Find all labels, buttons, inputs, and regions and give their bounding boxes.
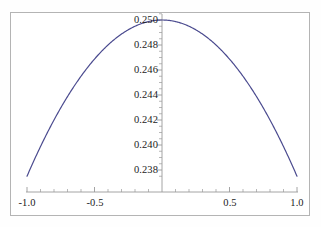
y-tick-label-0248: 0.248	[118, 39, 158, 50]
y-tick-label-0240: 0.240	[118, 139, 158, 150]
x-tick-label-pos05: 0.5	[210, 197, 250, 208]
y-tick-label-0250: 0.250	[118, 14, 158, 25]
y-tick-label-0246: 0.246	[118, 64, 158, 75]
x-tick-label-neg1: -1.0	[7, 197, 47, 208]
plot-root: 0.250 0.248 0.246 0.244 0.242 0.240 0.23…	[0, 0, 321, 227]
y-tick-label-0244: 0.244	[118, 89, 158, 100]
x-tick-label-neg05: -0.5	[75, 197, 115, 208]
y-tick-label-0242: 0.242	[118, 114, 158, 125]
x-tick-label-pos1: 1.0	[277, 197, 317, 208]
plot-canvas	[0, 0, 321, 227]
y-tick-label-0238: 0.238	[118, 164, 158, 175]
